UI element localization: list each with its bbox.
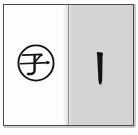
kanji-ink-blob-right — [46, 61, 50, 65]
kanji-stroke-top-hook — [23, 54, 42, 63]
panel-left-circled-character — [4, 5, 69, 125]
divider-shading — [63, 5, 68, 125]
panel-right-brush-stroke — [69, 5, 133, 125]
scan-edge-bottom — [4, 126, 135, 128]
gray-panel-inner-edge — [69, 5, 72, 125]
circled-character-svg — [16, 43, 56, 83]
kanji-stroke-vertical-hook — [28, 56, 35, 74]
vertical-brush-stroke-svg — [88, 50, 112, 90]
vertical-brush-stroke-glyph — [88, 50, 112, 90]
figure-root — [0, 0, 138, 135]
figure-frame — [3, 4, 134, 126]
brush-stroke-body — [97, 52, 103, 84]
circled-character-glyph — [16, 43, 56, 83]
scan-edge-right — [134, 4, 136, 127]
